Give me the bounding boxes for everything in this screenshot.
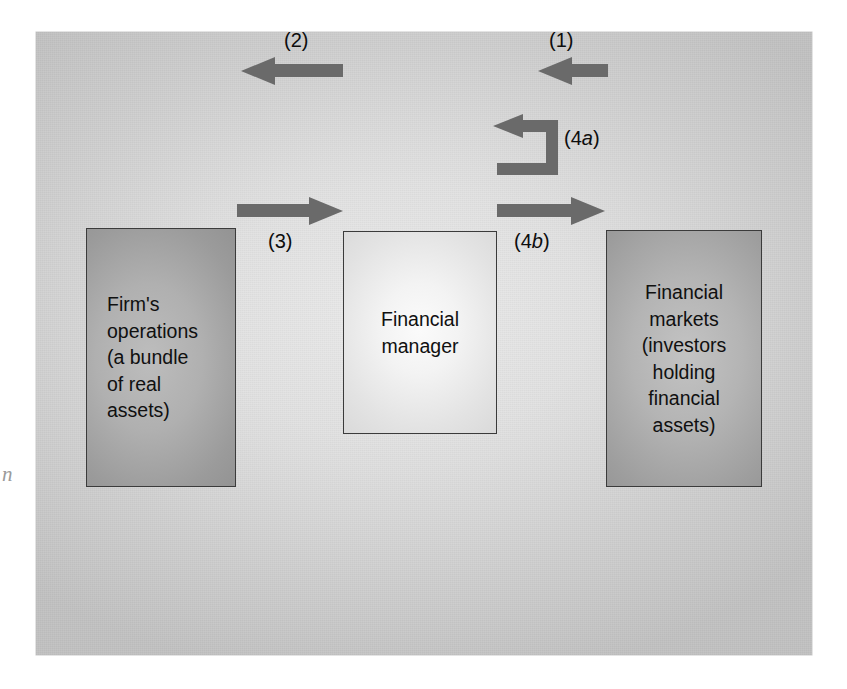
flow-4a-label: (4a) bbox=[564, 128, 600, 148]
flow-4b-arrowhead bbox=[571, 197, 605, 225]
margin-mark: n bbox=[2, 462, 13, 487]
flow-2-arrowhead bbox=[241, 57, 275, 85]
flow-4b-label-italic: b bbox=[532, 230, 543, 252]
flow-4a-label-suffix: ) bbox=[593, 127, 600, 149]
financial-markets-line-1: Financial bbox=[607, 279, 761, 306]
financial-manager-line-2: manager bbox=[344, 333, 496, 360]
financial-manager-label: Financial manager bbox=[344, 306, 496, 359]
flow-4b-label-prefix: (4 bbox=[514, 230, 532, 252]
flow-4a-shaft-top bbox=[523, 120, 558, 132]
flow-4b-label-suffix: ) bbox=[543, 230, 550, 252]
financial-manager-box: Financial manager bbox=[343, 231, 497, 434]
flow-2-label: (2) bbox=[284, 30, 308, 50]
financial-markets-line-6: assets) bbox=[607, 412, 761, 439]
firm-operations-box: Firm's operations (a bundle of real asse… bbox=[86, 228, 236, 487]
financial-markets-line-4: holding bbox=[607, 359, 761, 386]
financial-markets-line-5: financial bbox=[607, 385, 761, 412]
firm-operations-line-2: operations bbox=[107, 318, 235, 345]
financial-markets-label: Financial markets (investors holding fin… bbox=[607, 279, 761, 438]
firm-operations-line-3: (a bundle bbox=[107, 344, 235, 371]
flow-2-shaft bbox=[275, 64, 343, 77]
flow-1-label: (1) bbox=[549, 30, 573, 50]
flow-4a-label-italic: a bbox=[582, 127, 593, 149]
financial-markets-line-3: (investors bbox=[607, 332, 761, 359]
firm-operations-line-1: Firm's bbox=[107, 291, 235, 318]
flow-4a-label-prefix: (4 bbox=[564, 127, 582, 149]
financial-manager-line-1: Financial bbox=[344, 306, 496, 333]
flow-4b-shaft bbox=[497, 204, 571, 217]
firm-operations-line-4: of real bbox=[107, 371, 235, 398]
financial-markets-line-2: markets bbox=[607, 306, 761, 333]
firm-operations-line-5: assets) bbox=[107, 397, 235, 424]
flow-4b-label: (4b) bbox=[514, 231, 550, 251]
financial-markets-box: Financial markets (investors holding fin… bbox=[606, 230, 762, 487]
flow-3-shaft bbox=[237, 204, 309, 217]
flow-3-label: (3) bbox=[268, 231, 292, 251]
firm-operations-label: Firm's operations (a bundle of real asse… bbox=[107, 291, 235, 424]
flow-4a-arrowhead bbox=[493, 114, 523, 138]
flow-3-arrowhead bbox=[309, 197, 343, 225]
flow-1-arrowhead bbox=[538, 57, 572, 85]
figure-panel: (2) (1) (3) (4a) (4b) Firm's operations … bbox=[36, 32, 812, 655]
flow-1-shaft bbox=[572, 64, 608, 77]
figure-page: (2) (1) (3) (4a) (4b) Firm's operations … bbox=[0, 0, 847, 689]
